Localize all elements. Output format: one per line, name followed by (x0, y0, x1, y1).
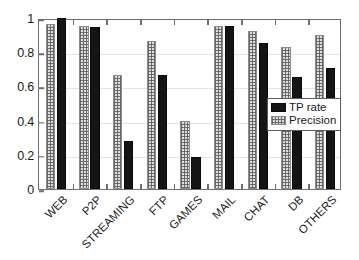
x-category-label: DB (286, 194, 306, 214)
bar-precision (248, 31, 258, 189)
legend-label-tp-rate: TP rate (289, 102, 327, 114)
bar-tp-rate (158, 75, 168, 189)
x-category-label: WEB (43, 194, 70, 221)
bar-precision (147, 41, 157, 189)
x-category-label: MAIL (211, 194, 238, 221)
bar-tp-rate (124, 141, 134, 189)
bar-precision (79, 26, 89, 189)
x-category-label: P2P (80, 194, 104, 218)
legend-swatch-precision (271, 116, 286, 125)
x-category-label: FTP (147, 194, 171, 218)
bar-tp-rate (225, 26, 235, 189)
bar-precision (180, 121, 190, 189)
x-axis-category-labels: WEBP2PSTREAMINGFTPGAMESMAILCHATDBOTHERS (38, 190, 341, 260)
bar-tp-rate (292, 77, 302, 189)
legend-label-precision: Precision (289, 115, 336, 127)
legend-swatch-tp-rate (271, 103, 286, 112)
bar-tp-rate (191, 157, 201, 189)
bar-precision (113, 75, 123, 189)
legend-entry-precision: Precision (271, 114, 337, 127)
x-category-label: CHAT (242, 194, 272, 224)
chart-legend: TP rate Precision (267, 98, 341, 131)
y-axis-tick-labels: 00.20.40.60.81 (0, 19, 34, 190)
legend-entry-tp-rate: TP rate (271, 101, 337, 114)
bar-tp-rate (57, 18, 67, 189)
y-tick-label: 1 (0, 13, 34, 26)
y-tick-label: 0.4 (0, 115, 34, 128)
y-tick-label: 0.8 (0, 47, 34, 60)
y-tick-label: 0.2 (0, 150, 34, 163)
y-tick-label: 0.6 (0, 81, 34, 94)
y-tick-label: 0 (0, 184, 34, 197)
bar-precision (46, 24, 56, 189)
x-category-label: GAMES (167, 194, 205, 232)
bar-precision (214, 26, 224, 189)
bar-chart-figure: 00.20.40.60.81 WEBP2PSTREAMINGFTPGAMESMA… (0, 0, 359, 260)
bar-tp-rate (90, 27, 100, 189)
